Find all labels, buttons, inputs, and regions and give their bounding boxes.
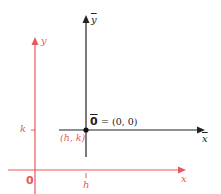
k-tick-label: k — [20, 124, 26, 134]
translated-origin-symbol: 0 — [90, 116, 98, 127]
original-y-arrow-icon — [32, 37, 39, 45]
translated-origin-equation: = (0, 0) — [101, 117, 138, 127]
original-origin-label: 0 — [26, 175, 34, 186]
translated-y-label: y — [91, 15, 97, 25]
h-tick-label: h — [83, 180, 89, 190]
original-x-label: x — [181, 174, 187, 184]
coordinate-translation-diagram: y x 0 h k (h, k) y x 0 = (0, 0) — [0, 0, 221, 194]
original-y-label: y — [41, 36, 47, 46]
translated-y-arrow-icon — [83, 15, 90, 23]
translated-x-label: x — [202, 134, 208, 144]
axes-drawing — [0, 0, 221, 194]
point-hk-label: (h, k) — [60, 133, 85, 143]
